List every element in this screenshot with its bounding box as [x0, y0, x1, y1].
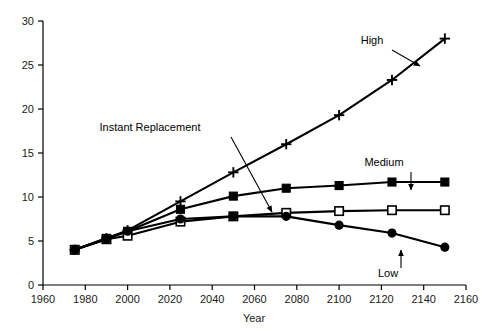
- annotation-label-high: High: [361, 34, 384, 46]
- marker-medium: [388, 178, 396, 186]
- marker-instant-replacement: [335, 207, 343, 215]
- marker-medium: [282, 184, 290, 192]
- x-tick-label: 2160: [454, 293, 478, 305]
- marker-low: [124, 227, 132, 235]
- marker-low: [282, 212, 290, 220]
- x-tick-label: 2000: [115, 293, 139, 305]
- population-projection-chart: 051015202530 196019802000202020402060208…: [0, 0, 496, 336]
- marker-low: [441, 243, 449, 251]
- marker-low: [229, 212, 237, 220]
- annotation-label-low: Low: [378, 267, 398, 279]
- marker-low: [102, 235, 110, 243]
- y-tick-label: 15: [22, 147, 34, 159]
- chart-canvas: 051015202530 196019802000202020402060208…: [0, 0, 496, 336]
- x-axis-title: Year: [243, 312, 266, 324]
- x-tick-label: 1960: [31, 293, 55, 305]
- y-tick-label: 5: [28, 235, 34, 247]
- marker-instant-replacement: [441, 206, 449, 214]
- x-tick-label: 1980: [73, 293, 97, 305]
- marker-low: [71, 246, 79, 254]
- x-tick-label: 2140: [411, 293, 435, 305]
- y-tick-label: 0: [28, 279, 34, 291]
- x-tick-label: 2020: [158, 293, 182, 305]
- annotation-label-medium: Medium: [364, 156, 403, 168]
- marker-low: [335, 221, 343, 229]
- marker-medium: [176, 205, 184, 213]
- marker-instant-replacement: [388, 206, 396, 214]
- x-tick-label: 2120: [369, 293, 393, 305]
- x-tick-label: 2060: [242, 293, 266, 305]
- x-tick-label: 2040: [200, 293, 224, 305]
- marker-low: [388, 229, 396, 237]
- y-tick-label: 25: [22, 59, 34, 71]
- marker-medium: [335, 182, 343, 190]
- marker-medium: [441, 178, 449, 186]
- annotation-label-instant-replacement: Instant Replacement: [100, 121, 201, 133]
- y-tick-label: 30: [22, 15, 34, 27]
- x-tick-label: 2100: [327, 293, 351, 305]
- x-tick-label: 2080: [285, 293, 309, 305]
- y-tick-label: 10: [22, 191, 34, 203]
- marker-medium: [229, 192, 237, 200]
- y-tick-label: 20: [22, 103, 34, 115]
- marker-low: [176, 215, 184, 223]
